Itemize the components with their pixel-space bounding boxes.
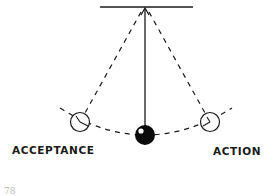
- right-swing-line: [149, 12, 205, 113]
- right-ghost-bob: [201, 113, 220, 132]
- pendulum-diagram: [0, 0, 278, 196]
- pendulum-ball: [135, 125, 155, 145]
- left-swing-line: [85, 12, 141, 113]
- left-ghost-bob: [71, 113, 90, 132]
- label-action: ACTION: [213, 145, 261, 157]
- page-number-fragment: 78: [4, 186, 15, 196]
- label-acceptance: ACCEPTANCE: [12, 144, 95, 156]
